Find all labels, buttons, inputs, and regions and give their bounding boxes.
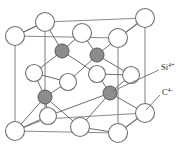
atom-cation — [55, 44, 69, 58]
legend-label-cation: Si4+ — [161, 62, 174, 72]
atom-anion — [60, 74, 77, 91]
cube-edge-front-bottom — [15, 131, 118, 133]
atom-anion — [109, 29, 128, 48]
legend-anion-charge: 4- — [168, 87, 173, 93]
atom-cation — [103, 86, 117, 100]
atom-anion — [26, 65, 43, 82]
legend-label-anion: C4- — [162, 87, 173, 97]
atom-cation — [90, 48, 104, 62]
bond — [48, 93, 110, 116]
atom-anion — [136, 9, 155, 28]
cube-edge-front-top — [15, 36, 118, 38]
legend-labels-group: Si4+ C4- — [161, 62, 174, 97]
cube-edge-back-top — [45, 18, 145, 22]
atom-anion — [89, 66, 106, 83]
atom-cation — [38, 90, 52, 104]
atom-anion — [109, 124, 128, 143]
atom-anion — [73, 24, 92, 43]
crystal-structure-figure: Si4+ C4- — [0, 0, 194, 152]
legend-cation-charge: 4+ — [168, 62, 174, 68]
atom-anion — [6, 27, 25, 46]
atom-anion — [136, 104, 155, 123]
atom-anion — [6, 122, 25, 141]
atom-anion — [40, 108, 57, 125]
cube-edge-back-bottom — [45, 113, 145, 119]
atom-anion — [36, 13, 55, 32]
crystal-structure-diagram: Si4+ C4- — [0, 0, 194, 152]
atom-anion — [71, 118, 90, 137]
atom-anion — [123, 67, 140, 84]
